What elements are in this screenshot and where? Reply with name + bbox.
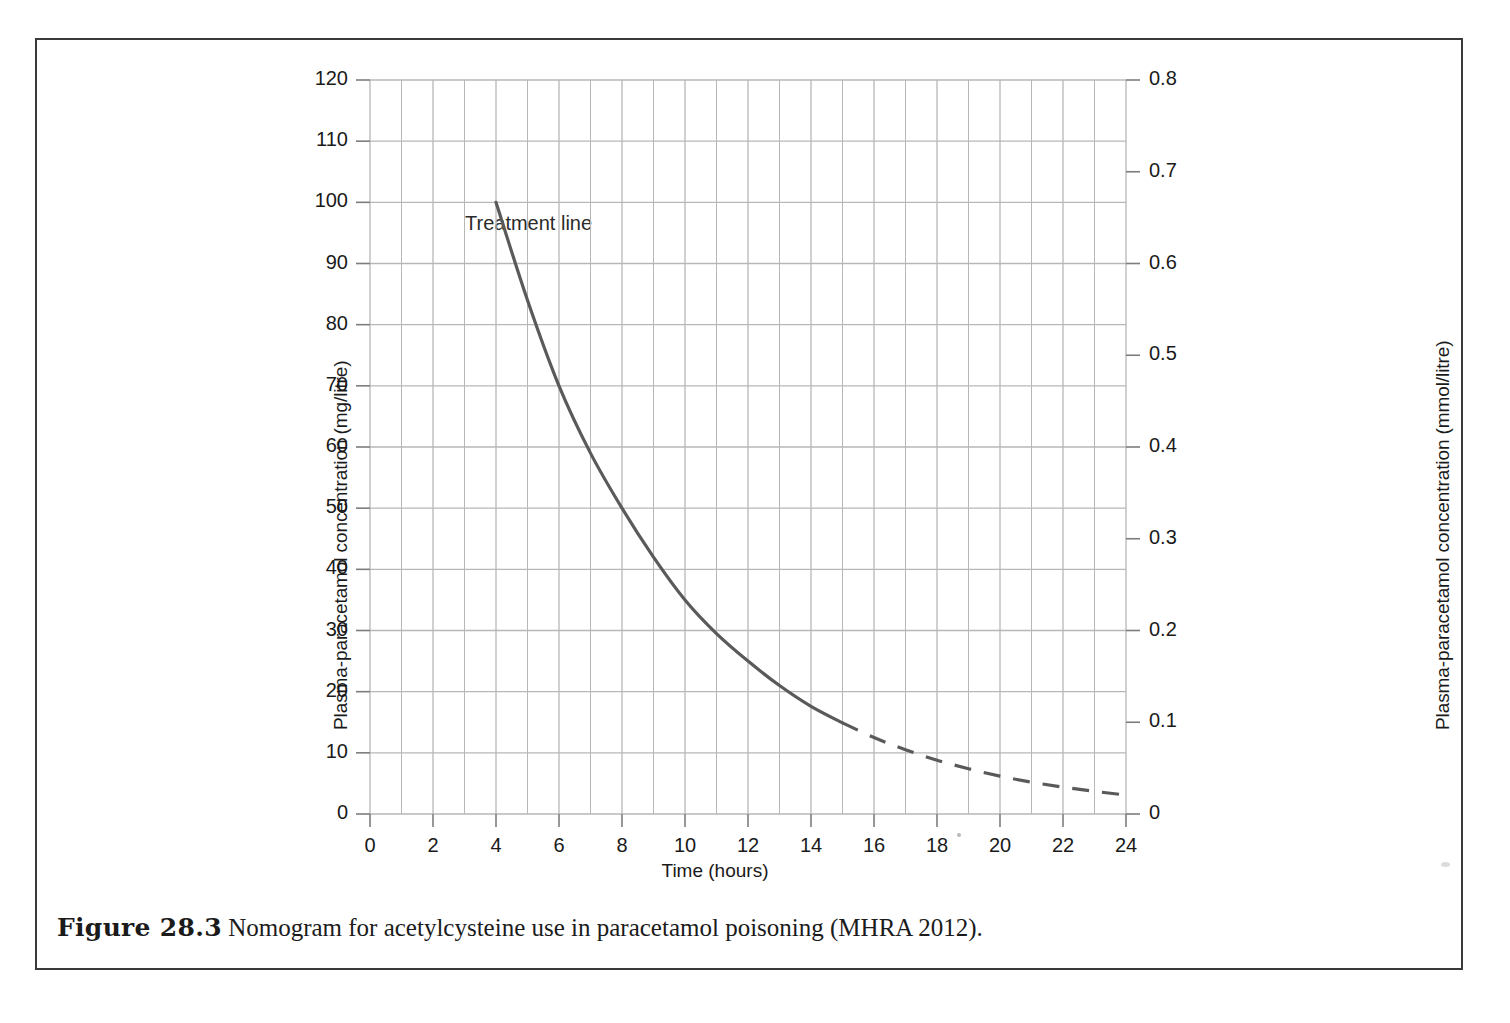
- plot-svg: [37, 40, 1465, 905]
- scan-speckle: [957, 833, 961, 837]
- caption-label: Figure 28.3: [57, 913, 222, 942]
- axis-ticks-right: [1126, 80, 1140, 814]
- figure-frame: Plasma-paracetamol concentration (mg/lit…: [35, 38, 1463, 970]
- caption-text: Nomogram for acetylcysteine use in parac…: [228, 914, 983, 941]
- axis-ticks-bottom: [370, 814, 1126, 827]
- chart-area: Plasma-paracetamol concentration (mg/lit…: [37, 40, 1465, 905]
- scan-speckle: [1441, 862, 1450, 867]
- treatment-line-solid: [496, 202, 843, 723]
- treatment-line-dashed: [843, 723, 1127, 795]
- figure-caption: Figure 28.3 Nomogram for acetylcysteine …: [57, 912, 1437, 943]
- axis-ticks-left: [356, 80, 370, 814]
